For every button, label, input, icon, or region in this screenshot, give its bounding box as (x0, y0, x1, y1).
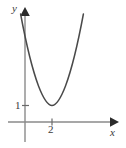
parabola-curve (21, 14, 84, 106)
x-tick-label-2: 2 (48, 124, 54, 135)
parabola-graph-figure: y x 1 2 (0, 0, 126, 148)
y-axis-label: y (12, 3, 17, 14)
y-axis-arrowhead (20, 7, 30, 16)
y-tick-label-1: 1 (15, 100, 21, 111)
x-axis-label: x (110, 127, 115, 138)
plot-canvas (0, 0, 126, 148)
